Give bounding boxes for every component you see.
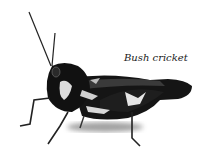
cricket-mid-leg xyxy=(48,112,68,144)
cricket-antenna xyxy=(29,12,51,66)
cricket-eye xyxy=(52,67,60,77)
figure: Bush cricket xyxy=(0,0,204,159)
caption: Bush cricket xyxy=(124,52,188,63)
bush-cricket-photo xyxy=(0,0,204,159)
cricket-antenna xyxy=(52,33,55,66)
cricket-front-leg xyxy=(20,98,50,126)
